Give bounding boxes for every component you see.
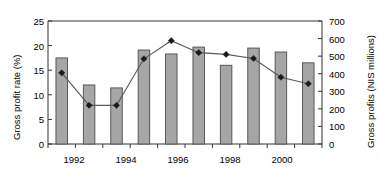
x-tick-label: 2000 xyxy=(271,154,292,165)
left-tick-label: 10 xyxy=(33,90,44,101)
chart-figure: Gross profit rate (%) Gross profits (NIS… xyxy=(0,0,380,178)
bar xyxy=(83,85,95,144)
x-tick-label: 1998 xyxy=(219,154,240,165)
right-tick-label: 0 xyxy=(329,139,334,150)
x-tick-label: 1996 xyxy=(167,154,188,165)
right-axis-title: Gross profits (NIS millions) xyxy=(365,35,376,148)
right-tick-label: 400 xyxy=(329,69,345,80)
right-tick-label: 100 xyxy=(329,121,345,132)
bar xyxy=(193,47,205,144)
x-tick-label: 1994 xyxy=(115,154,136,165)
right-tick-label: 700 xyxy=(329,16,345,27)
left-tick-label: 15 xyxy=(33,65,44,76)
bar xyxy=(138,50,150,144)
right-tick-label: 600 xyxy=(329,34,345,45)
bar xyxy=(220,65,232,144)
right-tick-label: 300 xyxy=(329,86,345,97)
left-tick-label: 25 xyxy=(33,16,44,27)
x-tick-label: 1992 xyxy=(63,154,84,165)
bar xyxy=(275,52,287,144)
bar xyxy=(111,88,123,144)
right-tick-label: 200 xyxy=(329,104,345,115)
bar xyxy=(303,63,315,144)
left-tick-label: 5 xyxy=(39,114,44,125)
right-tick-label: 500 xyxy=(329,51,345,62)
bar xyxy=(166,54,178,144)
left-tick-label: 20 xyxy=(33,41,44,52)
left-axis-title: Gross profit rate (%) xyxy=(11,54,22,140)
left-tick-label: 0 xyxy=(39,139,44,150)
bar xyxy=(248,48,260,144)
